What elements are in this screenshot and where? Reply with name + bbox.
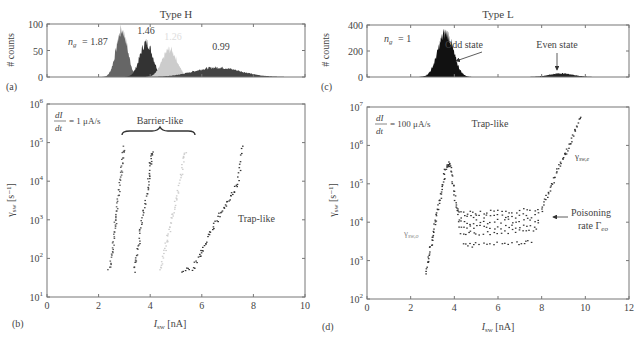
- data-point: [115, 228, 117, 229]
- data-point: [483, 243, 485, 244]
- data-point: [116, 223, 118, 224]
- data-point: [114, 236, 116, 237]
- data-point: [426, 267, 428, 268]
- data-point: [135, 257, 137, 258]
- data-point: [500, 228, 502, 229]
- data-point: [486, 227, 488, 228]
- data-point: [163, 250, 165, 251]
- data-point: [122, 152, 124, 153]
- data-point: [505, 217, 507, 218]
- data-point: [439, 203, 441, 204]
- data-point: [519, 215, 521, 216]
- y-tick-label: 107: [350, 100, 364, 113]
- data-point: [220, 212, 222, 213]
- data-point: [116, 210, 118, 211]
- data-point: [144, 203, 146, 204]
- data-point: [184, 153, 186, 154]
- data-point: [523, 213, 525, 214]
- y-tick-label: 106: [350, 138, 364, 151]
- rate-annotation-b: dI dt = 1 μA/s: [54, 110, 101, 133]
- data-point: [110, 263, 112, 264]
- data-point: [228, 200, 230, 201]
- data-point: [511, 225, 513, 226]
- data-point: [501, 233, 503, 234]
- data-point: [497, 219, 499, 220]
- data-point: [167, 235, 169, 236]
- data-point: [460, 233, 462, 234]
- data-point: [500, 223, 502, 224]
- data-point: [486, 213, 488, 214]
- data-point: [239, 167, 241, 168]
- data-point: [427, 256, 429, 257]
- data-point: [234, 186, 236, 187]
- data-point: [554, 177, 556, 178]
- data-point: [493, 244, 495, 245]
- data-point: [572, 134, 574, 135]
- data-point: [451, 181, 453, 182]
- data-point: [472, 212, 474, 213]
- data-point: [115, 216, 117, 217]
- data-point: [171, 223, 173, 224]
- data-point: [429, 246, 431, 247]
- data-point: [537, 220, 539, 221]
- data-point: [141, 224, 143, 225]
- data-point: [526, 226, 528, 227]
- data-point: [123, 157, 125, 158]
- panel-label-a: (a): [6, 81, 17, 93]
- data-point: [165, 250, 167, 251]
- panel-label-b: (b): [12, 318, 24, 330]
- data-point: [144, 200, 146, 201]
- data-point: [463, 212, 465, 213]
- data-point: [242, 146, 244, 147]
- data-point: [527, 218, 529, 219]
- data-point: [464, 221, 466, 222]
- data-point: [159, 269, 161, 270]
- data-point: [239, 164, 241, 165]
- data-point: [182, 174, 184, 175]
- data-point: [218, 213, 220, 214]
- data-point: [504, 243, 506, 244]
- data-point: [217, 221, 219, 222]
- x-tick-label: 10: [300, 300, 310, 311]
- data-point: [560, 163, 562, 164]
- gamma-sw-o-label: γsw,o: [403, 228, 418, 239]
- data-point: [240, 170, 242, 171]
- data-point: [466, 216, 468, 217]
- data-point: [452, 175, 454, 176]
- data-point: [148, 189, 150, 190]
- data-point: [164, 243, 166, 244]
- data-point: [473, 217, 475, 218]
- trap-like-label-b: Trap-like: [238, 213, 275, 224]
- data-point: [113, 234, 115, 235]
- ng-symbol-c: ng: [384, 33, 393, 46]
- data-point: [534, 214, 536, 215]
- data-point: [429, 255, 431, 256]
- scatter-d-points: [425, 117, 581, 275]
- data-point: [460, 217, 462, 218]
- data-point: [183, 161, 185, 162]
- svg-text:dI: dI: [376, 113, 385, 123]
- data-point: [526, 230, 528, 231]
- data-point: [444, 174, 446, 175]
- x-tick-label: 0: [45, 300, 50, 311]
- data-point: [527, 240, 529, 241]
- data-point: [139, 229, 141, 230]
- data-point: [149, 176, 151, 177]
- data-point: [200, 256, 202, 257]
- data-point: [114, 222, 116, 223]
- data-point: [112, 241, 114, 242]
- data-point: [578, 122, 580, 123]
- data-point: [458, 221, 460, 222]
- data-point: [507, 233, 509, 234]
- data-point: [176, 195, 178, 196]
- data-point: [486, 215, 488, 216]
- data-point: [455, 195, 457, 196]
- data-point: [522, 230, 524, 231]
- data-point: [449, 163, 451, 164]
- data-point: [470, 215, 472, 216]
- data-point: [467, 214, 469, 215]
- panel-a-histogram: Type H 050100 # counts (a) ng = 1.87 1.4…: [5, 8, 305, 93]
- data-point: [441, 198, 443, 199]
- y-tick-label: 104: [350, 215, 364, 228]
- data-point: [174, 207, 176, 208]
